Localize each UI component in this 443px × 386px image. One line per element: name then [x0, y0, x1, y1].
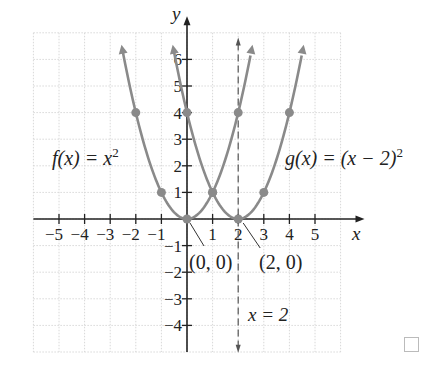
y-axis-arrow-icon: [184, 16, 191, 25]
y-axis-label: y: [172, 4, 180, 23]
curve-arrow-icon: [246, 45, 255, 55]
curve-arrow-icon: [298, 45, 307, 55]
x-tick-label: 1: [208, 225, 217, 244]
y-tick-label: −4: [164, 316, 183, 335]
vertex-g-label: (2, 0): [259, 252, 302, 272]
arrow-up-icon: [236, 37, 241, 45]
x-tick-label: 3: [260, 225, 269, 244]
vertex-f-label: (0, 0): [189, 252, 232, 272]
data-point: [183, 215, 192, 224]
axis-of-symmetry-label: x = 2: [248, 305, 288, 324]
y-tick-label: 2: [174, 157, 183, 176]
x-tick-label: −4: [71, 225, 90, 244]
data-point: [285, 108, 294, 117]
data-point: [131, 108, 140, 117]
y-tick-label: 4: [174, 104, 183, 123]
leader-line: [243, 223, 260, 248]
curve-arrow-icon: [119, 45, 128, 55]
data-point: [234, 215, 243, 224]
x-tick-label: −3: [96, 225, 114, 244]
x-tick-label: −1: [147, 225, 165, 244]
x-axis-label: x: [352, 224, 360, 243]
graph: −5−4−3−2−112345654321−1−2−3−4: [0, 0, 443, 386]
x-tick-label: −2: [122, 225, 140, 244]
data-point: [208, 188, 217, 197]
y-tick-label: −2: [164, 263, 182, 282]
checkbox-icon[interactable]: [404, 337, 419, 352]
y-tick-label: 3: [174, 130, 183, 149]
y-tick-label: 1: [174, 183, 183, 202]
x-tick-label: 4: [285, 225, 294, 244]
data-point: [234, 108, 243, 117]
f-function-label: f(x) = x2: [52, 146, 119, 168]
y-tick-label: −3: [164, 290, 182, 309]
x-tick-label: −5: [45, 225, 63, 244]
data-point: [259, 188, 268, 197]
g-function-label: g(x) = (x − 2)2: [285, 146, 403, 168]
x-axis-arrow-icon: [356, 216, 365, 223]
y-tick-label: −1: [164, 237, 182, 256]
leader-line: [190, 223, 204, 246]
data-point: [157, 188, 166, 197]
data-point: [183, 108, 192, 117]
arrow-down-icon: [236, 345, 241, 353]
x-tick-label: 5: [311, 225, 320, 244]
